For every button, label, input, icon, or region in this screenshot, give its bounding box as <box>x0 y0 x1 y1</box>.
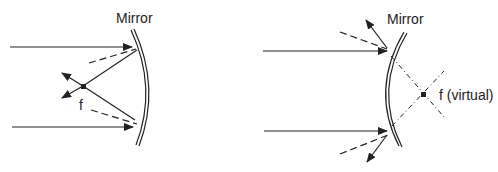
concave-mirror-diagram: Mirror f <box>10 10 153 146</box>
mirror-label: Mirror <box>116 10 153 26</box>
concave-mirror <box>131 29 149 146</box>
dashed-ray-top <box>340 32 387 49</box>
virtual-extension-top <box>391 56 444 117</box>
diverging-ray-up <box>62 73 83 86</box>
focal-point <box>81 84 86 89</box>
virtual-focal-label: f (virtual) <box>439 87 493 103</box>
reflected-ray-top <box>366 20 387 48</box>
convex-mirror-diagram: Mirror f (virtual) <box>263 11 493 162</box>
reflected-ray-top <box>83 50 137 86</box>
virtual-extension-bottom <box>392 71 444 126</box>
reflected-ray-bottom <box>83 86 135 120</box>
dashed-ray-bottom <box>340 135 388 154</box>
convex-mirror <box>386 32 407 147</box>
mirror-diagrams: Mirror f Mirror <box>0 0 498 172</box>
focal-label: f <box>79 97 83 113</box>
mirror-label: Mirror <box>387 11 424 27</box>
virtual-focal-point <box>421 92 426 97</box>
